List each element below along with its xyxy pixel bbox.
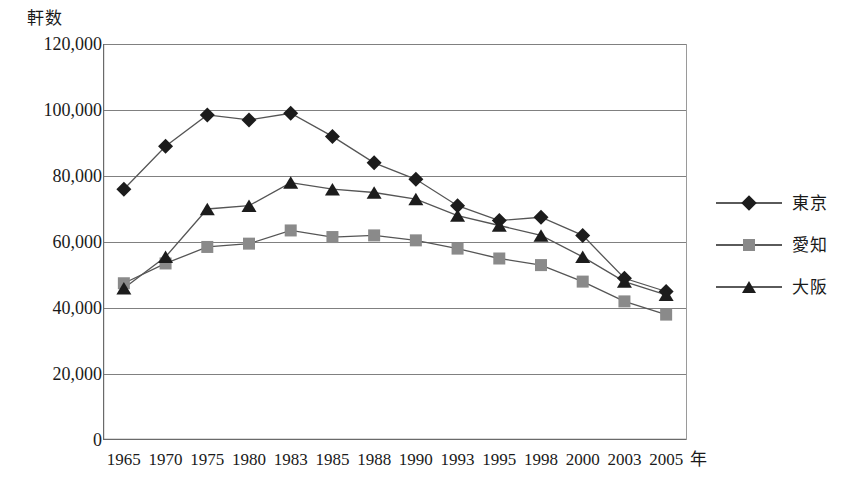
legend-item-大阪[interactable]: 大阪 — [716, 266, 841, 308]
legend-marker-triangle-icon — [716, 277, 782, 297]
triangle-icon — [742, 281, 756, 293]
legend-item-東京[interactable]: 東京 — [716, 182, 841, 224]
x-axis-tick-label: 2005 — [649, 451, 683, 468]
x-axis-tick-label: 1980 — [232, 451, 266, 468]
legend-item-label: 東京 — [792, 195, 828, 212]
legend-marker-diamond-icon — [716, 193, 782, 213]
x-axis-tick-label: 1970 — [149, 451, 183, 468]
legend-marker-square-icon — [716, 235, 782, 255]
x-axis-tick-label: 2000 — [566, 451, 600, 468]
x-axis-tick-label: 1988 — [357, 451, 391, 468]
x-axis-tick-label: 1965 — [107, 451, 141, 468]
legend-item-label: 愛知 — [792, 237, 828, 254]
chart-legend: 東京愛知大阪 — [716, 182, 841, 308]
x-axis-tick-label: 1995 — [482, 451, 516, 468]
x-axis-tick-labels: 1965197019751980198319851988199019931995… — [0, 0, 841, 482]
x-axis-tick-label: 1975 — [190, 451, 224, 468]
square-icon — [743, 239, 755, 251]
legend-item-愛知[interactable]: 愛知 — [716, 224, 841, 266]
x-axis-tick-label: 1998 — [524, 451, 558, 468]
x-axis-tick-label: 2003 — [607, 451, 641, 468]
chart-root: 軒数 020,00040,00060,00080,000100,000120,0… — [0, 0, 841, 482]
x-axis-tick-label: 1985 — [315, 451, 349, 468]
x-axis-tick-label: 1990 — [399, 451, 433, 468]
x-axis-unit-label: 年 — [690, 451, 707, 468]
x-axis-tick-label: 1983 — [274, 451, 308, 468]
x-axis-tick-label: 1993 — [441, 451, 475, 468]
diamond-icon — [741, 195, 757, 211]
legend-item-label: 大阪 — [792, 279, 828, 296]
